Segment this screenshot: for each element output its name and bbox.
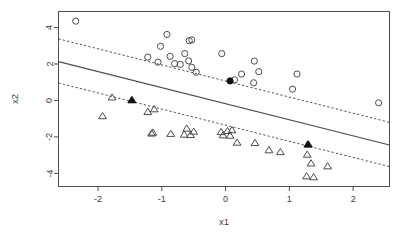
y-tick-label: 2	[45, 61, 55, 66]
y-axis-title: x2	[9, 94, 20, 104]
scatter-plot-svg: -2-1012-4-2024x1x2	[0, 0, 411, 243]
x-tick-label: 1	[287, 194, 292, 204]
x-axis-title: x1	[219, 216, 229, 227]
chart-screenshot: -2-1012-4-2024x1x2	[0, 0, 411, 243]
x-tick-label: -1	[158, 194, 166, 204]
y-tick-label: 0	[45, 98, 55, 103]
y-tick-label: 4	[45, 25, 55, 30]
y-tick-label: -4	[45, 169, 55, 177]
support-vector-circle-marker	[227, 78, 233, 84]
x-tick-label: 2	[351, 194, 356, 204]
x-tick-label: 0	[223, 194, 228, 204]
y-tick-label: -2	[45, 133, 55, 141]
plot-background	[0, 0, 411, 243]
x-tick-label: -2	[94, 194, 102, 204]
